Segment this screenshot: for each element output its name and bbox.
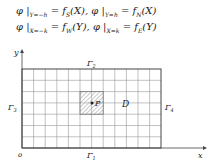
boundary-top-label: Γ2	[86, 59, 96, 69]
boundary-left-label: Γ3	[7, 103, 17, 113]
boundary-right-label: Γ4	[164, 103, 174, 113]
x-axis-label: x	[198, 151, 203, 160]
boundary-bottom-label: Γ1	[86, 151, 96, 160]
y-axis-arrow-icon	[20, 49, 24, 53]
point-p	[91, 102, 94, 105]
point-label: P	[94, 99, 101, 108]
x-axis-arrow-icon	[203, 146, 207, 150]
origin-label: o	[18, 151, 22, 159]
region-label: D	[121, 99, 129, 109]
y-axis-label: y	[13, 48, 19, 57]
grid-lines	[22, 69, 161, 148]
grid-diagram: y x o D P Γ2 Γ1 Γ3 Γ4	[0, 0, 216, 160]
